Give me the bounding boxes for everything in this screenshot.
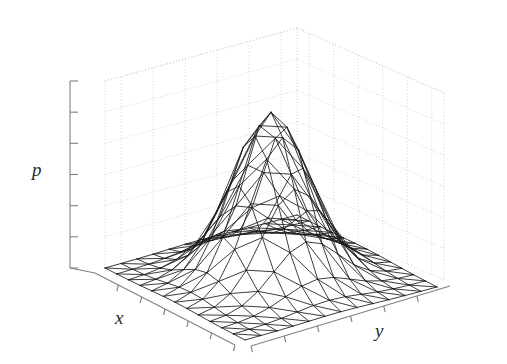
surface-plot-canvas [0,0,507,364]
gaussian-surface-figure: p x y [0,0,507,364]
axis-lines [70,81,450,352]
z-axis-label: p [32,160,42,179]
x-axis-label: x [115,308,123,327]
y-axis-label: y [375,321,383,340]
background-grid [105,28,444,280]
surface-mesh [105,112,437,340]
